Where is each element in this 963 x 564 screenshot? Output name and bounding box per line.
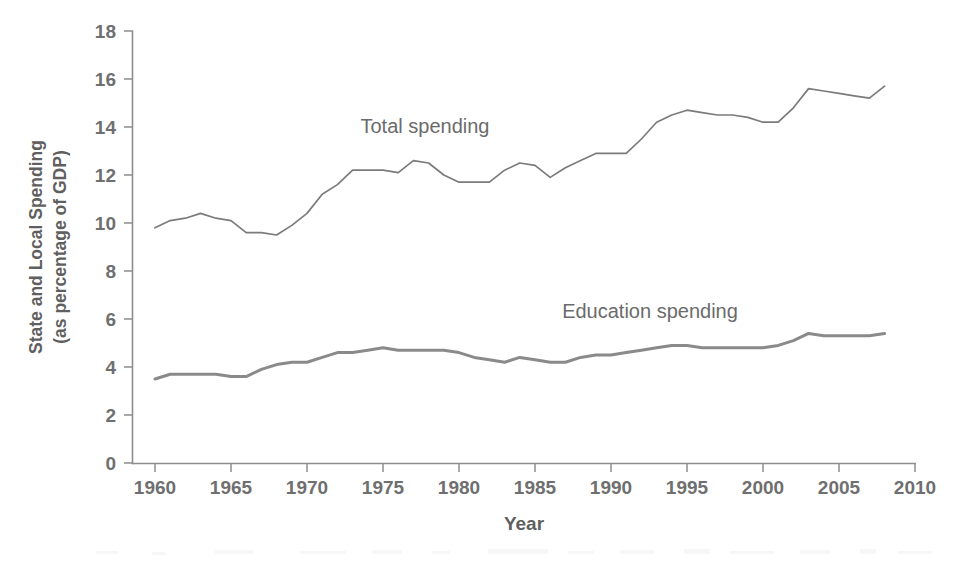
- y-tick-label: 2: [105, 405, 116, 426]
- y-tick-label: 18: [95, 21, 116, 42]
- y-axis-tick-labels: 18 16 14 12 10 8 6 4 2 0: [95, 21, 117, 474]
- x-axis-ticks: [155, 463, 915, 472]
- x-tick-label: 1985: [514, 477, 557, 498]
- y-tick-label: 8: [105, 261, 116, 282]
- line-chart: 18 16 14 12 10 8 6 4 2 0 State and Local…: [0, 0, 963, 564]
- x-axis-tick-labels: 1960 1965 1970 1975 1980 1985 1990 1995 …: [134, 477, 936, 498]
- x-tick-label: 1980: [438, 477, 480, 498]
- y-axis-title-line2: (as percentage of GDP): [50, 150, 70, 344]
- chart-figure: 18 16 14 12 10 8 6 4 2 0 State and Local…: [0, 0, 963, 564]
- y-axis: 18 16 14 12 10 8 6 4 2 0 State and Local…: [26, 21, 133, 474]
- y-tick-label: 12: [95, 165, 116, 186]
- y-tick-label: 16: [95, 69, 116, 90]
- x-axis-title: Year: [504, 513, 545, 534]
- scan-artifacts: [96, 549, 932, 555]
- x-axis: 1960 1965 1970 1975 1980 1985 1990 1995 …: [133, 463, 937, 534]
- y-axis-title: State and Local Spending (as percentage …: [26, 140, 70, 354]
- x-tick-label: 2000: [742, 477, 784, 498]
- y-tick-label: 14: [95, 117, 117, 138]
- series-line-total-spending: [155, 86, 885, 235]
- annotation-total-spending: Total spending: [361, 115, 490, 137]
- x-tick-label: 1960: [134, 477, 176, 498]
- x-tick-label: 1995: [666, 477, 709, 498]
- y-tick-label: 4: [105, 357, 116, 378]
- series-annotations: Total spending Education spending: [361, 115, 738, 322]
- y-axis-ticks: [124, 31, 132, 463]
- y-axis-title-line1: State and Local Spending: [26, 140, 46, 354]
- y-tick-label: 10: [95, 213, 116, 234]
- x-tick-label: 1990: [590, 477, 632, 498]
- x-tick-label: 1970: [286, 477, 328, 498]
- y-tick-label: 0: [105, 453, 116, 474]
- x-tick-label: 2005: [818, 477, 861, 498]
- annotation-education-spending: Education spending: [562, 300, 738, 322]
- series-line-education-spending: [155, 333, 885, 379]
- x-tick-label: 1965: [210, 477, 253, 498]
- y-tick-label: 6: [105, 309, 116, 330]
- data-series-group: [155, 86, 885, 379]
- x-tick-label: 2010: [894, 477, 936, 498]
- x-tick-label: 1975: [362, 477, 405, 498]
